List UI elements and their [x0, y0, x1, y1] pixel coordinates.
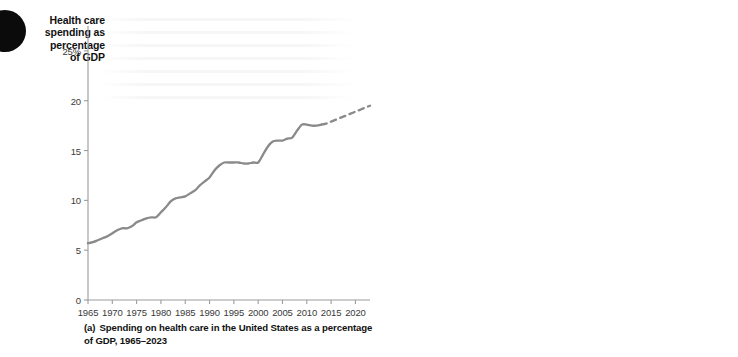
chart-a-x-tick-label: 1965	[78, 307, 99, 318]
chart-a-x-tick-label: 1990	[199, 307, 220, 318]
chart-a-y-tick-label: 5	[76, 245, 81, 256]
chart-a-x-tick-label: 2005	[272, 307, 293, 318]
chart-a-y-tick-label: 0	[76, 295, 81, 306]
chart-a-x-tick-label: 2020	[345, 307, 366, 318]
figure-a-us-health-spending-gdp: Health carespending aspercentageof GDP 0…	[0, 0, 385, 357]
chart-a-x-tick-label: 1980	[151, 307, 172, 318]
figure-a-caption-tag: (a)	[84, 322, 95, 333]
chart-a-series-line	[321, 106, 370, 125]
chart-a-y-tick-label: 20	[71, 95, 81, 106]
chart-a-x-tick-label: 2010	[297, 307, 318, 318]
chart-a-y-tick-label: 25%	[62, 45, 81, 56]
chart-a-x-tick-label: 2000	[248, 307, 269, 318]
figure-a-caption: (a)Spending on health care in the United…	[84, 322, 374, 347]
figure-a-caption-text: Spending on health care in the United St…	[84, 322, 372, 346]
chart-a-x-tick-label: 1970	[102, 307, 123, 318]
chart-a-canvas	[88, 26, 372, 302]
chart-a-y-tick-label: 15	[71, 145, 81, 156]
chart-a-x-tick-label: 1995	[224, 307, 245, 318]
chart-a-x-tick-label: 2015	[321, 307, 342, 318]
chart-a-y-tick-label: 10	[71, 195, 81, 206]
chart-a-x-tick-label: 1985	[175, 307, 196, 318]
figure-b-health-spending-per-person: Health carespendingper person 01,0002,00…	[385, 0, 738, 357]
chart-a-series-line	[88, 124, 321, 243]
chart-a-x-tick-label: 1975	[126, 307, 147, 318]
figure-a-plot-area: 0510152025%19651970197519801985199019952…	[88, 26, 370, 300]
